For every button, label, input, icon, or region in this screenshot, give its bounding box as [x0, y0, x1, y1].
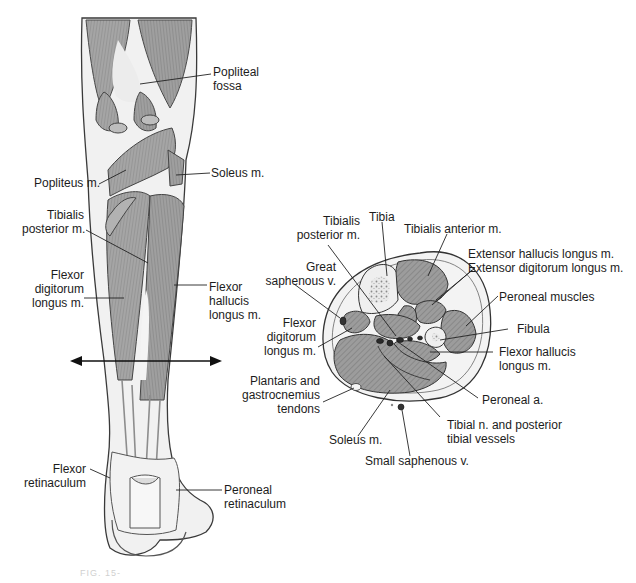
label-line: posterior m.	[22, 222, 84, 236]
label-line: digitorum	[22, 282, 84, 296]
label-line: Great	[262, 260, 336, 274]
label-small-saphenous: Small saphenous v.	[365, 454, 469, 468]
label-tibialis-posterior-section: Tibialis posterior m.	[286, 214, 360, 242]
label-line: saphenous v.	[262, 274, 336, 288]
label-line: Extensor hallucis longus m.	[468, 247, 623, 261]
label-line: Tibialis	[22, 208, 84, 222]
label-line: longus m.	[22, 296, 84, 310]
label-fibula: Fibula	[517, 322, 550, 336]
label-line: Tibia	[369, 210, 395, 224]
label-soleus-section: Soleus m.	[329, 433, 382, 447]
label-plantaris-gastrocnemius: Plantaris and gastrocnemius tendons	[240, 374, 320, 416]
label-line: Plantaris and	[240, 374, 320, 388]
label-line: retinaculum	[224, 497, 286, 511]
label-line: Soleus m.	[329, 433, 382, 447]
label-tibial-nerve-vessels: Tibial n. and posterior tibial vessels	[447, 418, 562, 446]
label-line: digitorum	[254, 330, 316, 344]
label-peroneal-artery: Peroneal a.	[482, 393, 543, 407]
label-line: longus m.	[254, 344, 316, 358]
label-line: Popliteus m.	[34, 176, 100, 190]
label-flexor-digitorum-longus-posterior: Flexor digitorum longus m.	[22, 268, 84, 310]
label-line: Fibula	[517, 322, 550, 336]
label-line: longus m.	[499, 359, 576, 373]
label-flexor-digitorum-longus-section: Flexor digitorum longus m.	[254, 316, 316, 358]
label-line: Small saphenous v.	[365, 454, 469, 468]
figure-caption: FIG. 15-	[80, 568, 121, 578]
label-extensors: Extensor hallucis longus m. Extensor dig…	[468, 247, 623, 275]
label-line: Tibialis anterior m.	[404, 222, 502, 236]
label-line: Tibialis	[286, 214, 360, 228]
label-line: Tibial n. and posterior	[447, 418, 562, 432]
label-line: Peroneal a.	[482, 393, 543, 407]
label-line: Flexor hallucis	[499, 345, 576, 359]
label-line: Soleus m.	[211, 166, 264, 180]
label-line: Peroneal muscles	[499, 290, 594, 304]
label-line: Flexor	[22, 268, 84, 282]
label-line: posterior m.	[286, 228, 360, 242]
label-line: hallucis	[209, 294, 261, 308]
label-flexor-retinaculum: Flexor retinaculum	[22, 462, 86, 490]
label-line: fossa	[213, 79, 259, 93]
label-line: Extensor digitorum longus m.	[468, 261, 623, 275]
label-flexor-hallucis-longus-section: Flexor hallucis longus m.	[499, 345, 576, 373]
label-line: Flexor	[22, 462, 86, 476]
anatomy-figure: Popliteal fossa Popliteus m. Soleus m. T…	[0, 0, 636, 583]
label-popliteal-fossa: Popliteal fossa	[213, 65, 259, 93]
label-soleus-posterior: Soleus m.	[211, 166, 264, 180]
label-great-saphenous: Great saphenous v.	[262, 260, 336, 288]
posterior-leg-view	[70, 18, 222, 556]
label-line: tibial vessels	[447, 432, 562, 446]
label-tibia: Tibia	[369, 210, 395, 224]
label-line: Flexor	[254, 316, 316, 330]
label-line: Peroneal	[224, 483, 286, 497]
label-peroneal-retinaculum: Peroneal retinaculum	[224, 483, 286, 511]
label-peroneal-muscles: Peroneal muscles	[499, 290, 594, 304]
label-line: retinaculum	[22, 476, 86, 490]
label-popliteus: Popliteus m.	[34, 176, 100, 190]
label-line: Popliteal	[213, 65, 259, 79]
label-tibialis-anterior: Tibialis anterior m.	[404, 222, 502, 236]
label-line: gastrocnemius	[240, 388, 320, 402]
label-line: Flexor	[209, 280, 261, 294]
label-line: tendons	[240, 402, 320, 416]
label-tibialis-posterior-posterior: Tibialis posterior m.	[22, 208, 84, 236]
